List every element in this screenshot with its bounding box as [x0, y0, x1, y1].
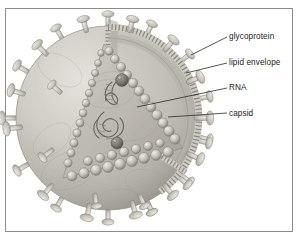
virus-diagram-figure: glycoprotein lipid envelope RNA capsid — [0, 0, 301, 241]
label-lipid-envelope: lipid envelope — [229, 59, 280, 67]
label-rna: RNA — [229, 84, 247, 92]
leader-line-lipid-envelope — [186, 63, 227, 73]
leader-line-glycoprotein — [191, 37, 227, 55]
label-glycoprotein: glycoprotein — [229, 33, 274, 41]
label-capsid: capsid — [229, 110, 253, 118]
